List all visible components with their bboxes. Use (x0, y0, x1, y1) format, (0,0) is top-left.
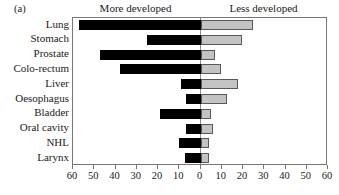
bar-more-developed (160, 109, 200, 119)
bar-row (73, 92, 326, 107)
bar-row (73, 136, 326, 151)
x-axis-tick (136, 165, 137, 169)
bar-more-developed (185, 153, 201, 163)
bar-less-developed (201, 138, 210, 148)
bar-more-developed (79, 20, 200, 30)
category-label: Oral cavity (0, 121, 69, 134)
x-axis-tick (93, 165, 94, 169)
bar-more-developed (181, 79, 200, 89)
bar-row (73, 48, 326, 63)
column-header-more-developed: More developed (72, 2, 199, 15)
bar-more-developed (186, 94, 201, 104)
category-label: Oesophagus (0, 92, 69, 105)
panel-label: (a) (14, 3, 26, 15)
bar-less-developed (201, 20, 253, 30)
bar-more-developed (179, 138, 200, 148)
category-label: Lung (0, 18, 69, 31)
category-label: Colo-rectum (0, 62, 69, 75)
figure-panel-a: (a) More developed Less developed LungSt… (0, 0, 339, 195)
bar-less-developed (201, 79, 238, 89)
category-label: Stomach (0, 32, 69, 45)
bar-less-developed (201, 153, 210, 163)
x-axis-tick (242, 165, 243, 169)
bar-row (73, 107, 326, 122)
category-label: Larynx (0, 151, 69, 164)
bar-row (73, 77, 326, 92)
x-axis-tick (178, 165, 179, 169)
x-axis-tick (263, 165, 264, 169)
x-axis-tick (306, 165, 307, 169)
bar-row (73, 18, 326, 33)
x-axis-tick (221, 165, 222, 169)
bar-less-developed (201, 109, 212, 119)
column-header-less-developed: Less developed (200, 2, 327, 15)
bar-row (73, 62, 326, 77)
x-axis-tick (115, 165, 116, 169)
bar-more-developed (186, 124, 201, 134)
category-label: Prostate (0, 47, 69, 60)
x-axis-tick (72, 165, 73, 169)
x-axis-tick (285, 165, 286, 169)
bar-more-developed (120, 64, 201, 74)
bar-less-developed (201, 50, 216, 60)
x-axis-tick (327, 165, 328, 169)
bar-less-developed (201, 35, 242, 45)
category-label: NHL (0, 136, 69, 149)
bar-more-developed (100, 50, 201, 60)
x-axis-tick (157, 165, 158, 169)
bar-less-developed (201, 124, 214, 134)
bar-row (73, 33, 326, 48)
x-axis-tick (200, 165, 201, 169)
bar-more-developed (147, 35, 200, 45)
bar-less-developed (201, 64, 221, 74)
category-label: Bladder (0, 106, 69, 119)
bar-less-developed (201, 94, 228, 104)
plot-area (72, 17, 327, 165)
x-axis-tick-label: 60 (315, 170, 339, 182)
bar-row (73, 151, 326, 166)
x-axis: 6050403020100102030405060 (72, 165, 327, 191)
bar-row (73, 122, 326, 137)
category-label: Liver (0, 77, 69, 90)
